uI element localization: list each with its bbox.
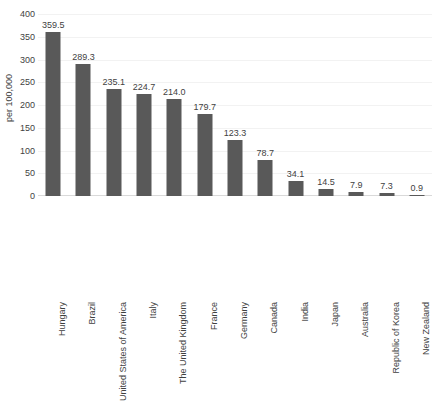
bar-group: 359.5 [38,14,68,196]
y-axis-tick-label: 350 [20,32,35,42]
bar-value-label: 289.3 [72,52,95,62]
x-axis-category-label-text: Brazil [87,302,97,325]
y-axis-tick-label: 400 [20,9,35,19]
bar-group: 34.1 [280,14,310,196]
bar-group: 7.3 [371,14,401,196]
x-axis-category-label-text: Italy [148,302,158,319]
x-axis-category-label-text: Canada [269,302,279,334]
bar[interactable] [379,193,394,196]
x-axis-category-label-text: United States of America [118,302,128,401]
bar[interactable] [288,181,303,197]
bar-group: 14.5 [311,14,341,196]
bar-value-label: 14.5 [317,177,335,187]
bar[interactable] [349,192,364,196]
bar[interactable] [197,114,212,196]
bar-value-label: 7.9 [350,180,363,190]
bar[interactable] [409,195,424,196]
x-axis-category-label-text: New Zealand [421,302,431,355]
bar-group: 0.9 [402,14,432,196]
bar-group: 7.9 [341,14,371,196]
x-axis-category-label-text: France [209,302,219,330]
bar-value-label: 78.7 [257,148,275,158]
bar-value-label: 34.1 [287,169,305,179]
bar-value-label: 214.0 [163,87,186,97]
bar-value-label: 7.3 [380,181,393,191]
bar-group: 289.3 [68,14,98,196]
bar[interactable] [258,160,273,196]
x-axis-category-label-text: Republic of Korea [391,302,401,374]
bar[interactable] [167,99,182,196]
bar-value-label: 224.7 [133,82,156,92]
bar-group: 214.0 [159,14,189,196]
x-axis-category-label-text: Hungary [57,302,67,336]
y-axis-title-text: per 100,000 [4,74,14,122]
x-axis-category-label-text: Japan [330,302,340,327]
bar-group: 123.3 [220,14,250,196]
bar-group: 235.1 [99,14,129,196]
x-axis-category-labels: HungaryBrazilUnited States of AmericaIta… [38,198,432,306]
bar-group: 179.7 [190,14,220,196]
bar[interactable] [137,94,152,196]
bar[interactable] [46,32,61,196]
bar[interactable] [106,89,121,196]
bar-value-label: 179.7 [193,102,216,112]
y-axis-tick-label: 200 [20,100,35,110]
y-axis-tick-label: 250 [20,77,35,87]
bar[interactable] [227,140,242,196]
y-axis-tick-label: 300 [20,55,35,65]
y-axis-tick-label: 50 [25,168,35,178]
x-axis-category-label-text: The United Kingdom [178,302,188,384]
x-axis-category-label-text: Australia [360,302,370,337]
bar-value-label: 0.9 [411,183,424,193]
bar-value-label: 123.3 [224,128,247,138]
x-axis-category-label-text: Germany [239,302,249,339]
bar[interactable] [318,189,333,196]
y-axis-tick-label: 150 [20,123,35,133]
y-axis-tick-label: 0 [30,191,35,201]
bar[interactable] [76,64,91,196]
bar-value-label: 359.5 [42,20,65,30]
bars-layer: 359.5289.3235.1224.7214.0179.7123.378.73… [38,14,432,196]
bar-value-label: 235.1 [102,77,125,87]
y-axis-ticks: 050100150200250300350400 [16,0,38,210]
bar-group: 78.7 [250,14,280,196]
x-axis-category-label-text: India [300,302,310,322]
y-axis-tick-label: 100 [20,146,35,156]
plot-area: 359.5289.3235.1224.7214.0179.7123.378.73… [38,14,432,196]
bar-group: 224.7 [129,14,159,196]
